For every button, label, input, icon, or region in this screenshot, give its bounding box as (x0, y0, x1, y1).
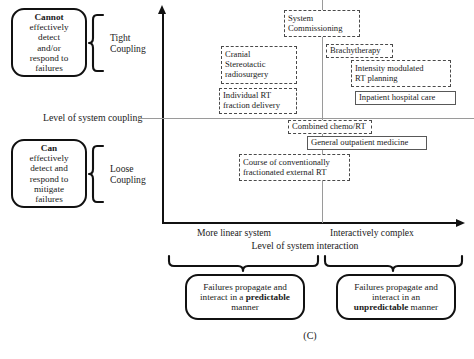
predictable-outcome-callout: Failures propagate and interact in a pre… (185, 274, 305, 320)
figure-canvas: Cannot effectively detect and/or respond… (0, 0, 474, 359)
tight-coupling-brace (88, 14, 110, 72)
y-axis (162, 14, 164, 224)
unpredictable-outcome-callout: Failures propagate and interact in an un… (336, 274, 456, 320)
predictable-brace (168, 255, 320, 275)
cannot-line-6: failures (35, 63, 63, 73)
item-system-commissioning[interactable]: System Commissioning (284, 10, 360, 37)
loose-coupling-line-1: Loose (110, 163, 133, 174)
x-tick-more-linear-system: More linear system (197, 227, 271, 238)
cannot-keyword: Cannot (34, 12, 63, 22)
item-brachytherapy[interactable]: Brachytherapy (326, 44, 393, 58)
can-line-4: respond to (30, 174, 69, 184)
tight-coupling-line-1: Tight (110, 32, 130, 43)
x-axis (162, 222, 458, 224)
can-line-2: effectively (29, 153, 68, 163)
item-combined-chemo-rt[interactable]: Combined chemo/RT (288, 120, 372, 134)
coupling-divider-line (140, 118, 474, 119)
panel-label: (C) (303, 330, 316, 341)
can-line-6: failures (35, 194, 63, 204)
y-axis-arrowhead (158, 5, 166, 14)
cannot-line-5: respond to (30, 53, 69, 63)
cannot-line-2: effectively (29, 22, 68, 32)
unpredictable-brace (324, 255, 464, 275)
cannot-respond-callout: Cannot effectively detect and/or respond… (11, 8, 87, 77)
can-respond-callout: Can effectively detect and respond to mi… (11, 139, 87, 208)
can-keyword: Can (41, 143, 57, 153)
x-tick-interactively-complex: Interactively complex (330, 227, 414, 238)
can-line-3: detect and (30, 163, 68, 173)
predictable-line-2-pre: interact in a (200, 292, 246, 302)
unpredictable-line-3-post: manner (408, 302, 438, 312)
y-axis-title: Level of system coupling (43, 112, 142, 123)
item-individual-rt-fraction-delivery[interactable]: Individual RT fraction delivery (219, 88, 297, 114)
item-cranial-stereotactic-radiosurgery[interactable]: Cranial Stereotactic radiosurgery (221, 46, 297, 84)
predictable-line-3: manner (231, 302, 259, 312)
x-axis-title: Level of system interaction (252, 240, 359, 251)
item-course-conventionally-fractionated-external-rt[interactable]: Course of conventionally fractionated ex… (239, 154, 350, 181)
tight-coupling-label: Tight Coupling (110, 33, 146, 54)
loose-coupling-brace (88, 145, 110, 203)
item-inpatient-hospital-care[interactable]: Inpatient hospital care (355, 91, 456, 105)
predictable-keyword: predictable (246, 292, 290, 302)
item-general-outpatient-medicine[interactable]: General outpatient medicine (307, 136, 427, 150)
cannot-line-4: and/or (37, 43, 60, 53)
predictable-line-1: Failures propagate and (203, 282, 287, 292)
can-line-5: mitigate (34, 184, 64, 194)
loose-coupling-label: Loose Coupling (110, 164, 146, 185)
unpredictable-line-1: Failures propagate and (354, 282, 438, 292)
tight-coupling-line-2: Coupling (110, 43, 146, 54)
cannot-line-3: detect (38, 32, 60, 42)
unpredictable-line-2: interact in an (372, 292, 420, 302)
unpredictable-keyword: unpredictable (354, 302, 408, 312)
item-intensity-modulated-rt-planning[interactable]: Intensity modulated RT planning (351, 60, 451, 87)
x-axis-arrowhead (456, 219, 465, 227)
loose-coupling-line-2: Coupling (110, 174, 146, 185)
